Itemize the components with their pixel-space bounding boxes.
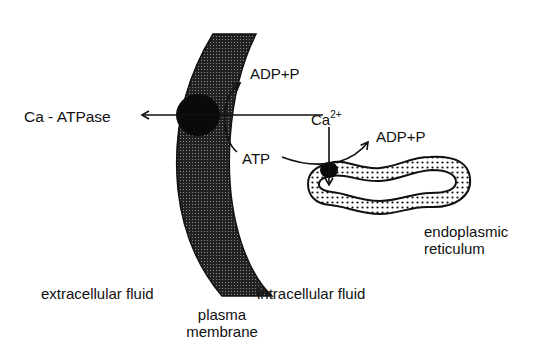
- adp-p-membrane-label: ADP+P: [250, 65, 300, 82]
- atp-hydrolysis-arrow-er: [282, 142, 368, 164]
- ca-atpase-label: Ca - ATPase: [24, 108, 111, 125]
- ca-ion-charge: 2+: [330, 109, 341, 120]
- plasma-membrane-label-line2: membrane: [172, 323, 272, 340]
- extracellular-fluid-label: extracellular fluid: [41, 285, 154, 302]
- er-label-line2: reticulum: [424, 240, 485, 257]
- diagram-canvas: [0, 0, 557, 357]
- ca-ion-symbol: Ca: [311, 111, 330, 128]
- er-label-line1: endoplasmic: [424, 223, 508, 240]
- plasma-membrane-label-line1: plasma: [182, 306, 262, 323]
- ca-ion-label: Ca2+: [311, 106, 342, 128]
- adp-p-er-label: ADP+P: [376, 128, 426, 145]
- atp-label: ATP: [242, 150, 270, 167]
- intracellular-fluid-label: intracellular fluid: [257, 285, 365, 302]
